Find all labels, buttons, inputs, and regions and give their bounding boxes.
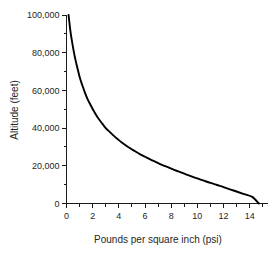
x-tick-label: 14 [245, 211, 255, 221]
y-tick-label: 0 [54, 199, 59, 209]
pressure-altitude-chart: 020,00040,00060,00080,000100,000 0246810… [0, 0, 280, 255]
chart-figure: 020,00040,00060,00080,000100,000 0246810… [0, 0, 280, 255]
x-tick-label: 2 [90, 211, 95, 221]
y-axis-tick-labels: 020,00040,00060,00080,000100,000 [27, 10, 60, 209]
x-tick-label: 10 [192, 211, 202, 221]
x-tick-label: 12 [219, 211, 229, 221]
y-tick-label: 100,000 [27, 10, 60, 20]
x-tick-label: 0 [64, 211, 69, 221]
x-axis-title: Pounds per square inch (psi) [94, 234, 222, 245]
y-tick-label: 80,000 [32, 48, 60, 58]
x-tick-label: 8 [169, 211, 174, 221]
pressure-altitude-curve [69, 15, 259, 204]
axis-ticks [62, 15, 263, 208]
y-axis-title: Altitude (feet) [9, 80, 20, 139]
x-axis-tick-labels: 02468101214 [64, 211, 255, 221]
y-tick-label: 60,000 [32, 86, 60, 96]
y-tick-label: 40,000 [32, 123, 60, 133]
y-tick-label: 20,000 [32, 161, 60, 171]
x-tick-label: 6 [142, 211, 147, 221]
x-tick-label: 4 [116, 211, 121, 221]
